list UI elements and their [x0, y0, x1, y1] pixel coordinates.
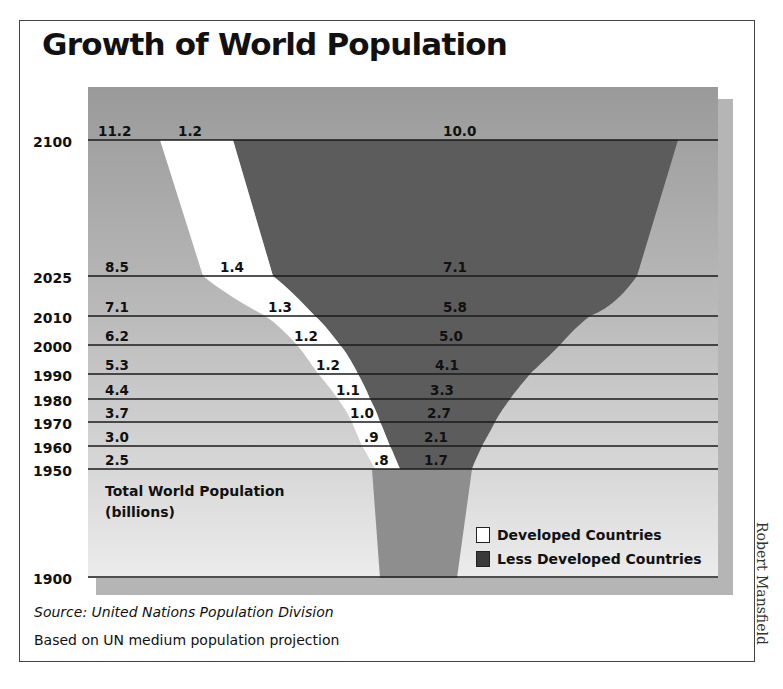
- year-label: 1960: [33, 440, 72, 456]
- axis-caption: Total World Population (billions): [105, 481, 284, 523]
- total-value: 6.2: [105, 328, 129, 344]
- year-label: 1990: [33, 368, 72, 384]
- total-value: 11.2: [98, 123, 131, 139]
- photo-credit: Robert Mansfield: [754, 522, 770, 645]
- less-developed-value: 7.1: [443, 259, 467, 275]
- total-value: 8.5: [105, 259, 129, 275]
- developed-value: 1.4: [220, 259, 244, 275]
- white-swatch-icon: [476, 527, 490, 543]
- total-value: 5.3: [105, 357, 129, 373]
- axis-caption-line1: Total World Population: [105, 481, 284, 502]
- dark-swatch-icon: [476, 551, 490, 567]
- less-developed-value: 2.1: [424, 429, 448, 445]
- developed-value: 1.0: [350, 405, 374, 421]
- developed-value: .9: [364, 429, 379, 445]
- legend-label: Less Developed Countries: [497, 551, 702, 567]
- projection-note: Based on UN medium population projection: [34, 632, 339, 648]
- year-label: 1970: [33, 416, 72, 432]
- total-value: 3.0: [105, 429, 129, 445]
- year-label: 1980: [33, 393, 72, 409]
- year-label: 1900: [33, 571, 72, 587]
- developed-value: .8: [374, 452, 389, 468]
- year-label: 2010: [33, 310, 72, 326]
- legend-item-less-developed: Less Developed Countries: [476, 547, 702, 570]
- total-value: 7.1: [105, 299, 129, 315]
- developed-value: 1.3: [268, 299, 292, 315]
- less-developed-value: 5.0: [439, 328, 463, 344]
- developed-value: 1.1: [336, 382, 360, 398]
- less-developed-value: 3.3: [430, 382, 454, 398]
- year-label: 2000: [33, 339, 72, 355]
- source-note: Source: United Nations Population Divisi…: [34, 604, 334, 620]
- total-value: 4.4: [105, 382, 129, 398]
- year-label: 1950: [33, 463, 72, 479]
- less-developed-value: 2.7: [427, 405, 451, 421]
- less-developed-value: 10.0: [443, 123, 476, 139]
- developed-value: 1.2: [294, 328, 318, 344]
- funnel-chart: 2100 2025 2010 2000 1990 1980 1970 1960 …: [0, 0, 783, 689]
- less-developed-value: 5.8: [443, 299, 467, 315]
- less-developed-value: 4.1: [435, 357, 459, 373]
- year-axis: 2100 2025 2010 2000 1990 1980 1970 1960 …: [33, 134, 72, 587]
- total-value: 3.7: [105, 405, 129, 421]
- legend: Developed Countries Less Developed Count…: [476, 523, 702, 571]
- less-developed-value: 1.7: [424, 452, 448, 468]
- legend-label: Developed Countries: [497, 527, 662, 543]
- population-stem-1900-1950: [372, 469, 472, 578]
- developed-value: 1.2: [316, 357, 340, 373]
- total-value: 2.5: [105, 452, 129, 468]
- year-label: 2025: [33, 270, 72, 286]
- axis-caption-line2: (billions): [105, 502, 284, 523]
- legend-item-developed: Developed Countries: [476, 523, 702, 546]
- developed-value: 1.2: [178, 123, 202, 139]
- year-label: 2100: [33, 134, 72, 150]
